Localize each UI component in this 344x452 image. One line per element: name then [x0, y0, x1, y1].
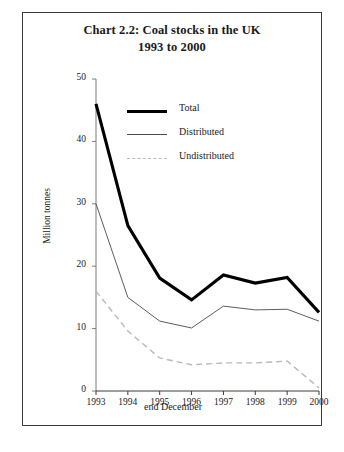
x-axis-tick-label: 1995 — [143, 397, 177, 407]
plot-area: Million tonnes end December 01020304050 … — [23, 13, 323, 427]
x-axis-tick-label: 2000 — [302, 397, 336, 407]
legend-item-undistributed: Undistributed — [127, 149, 287, 173]
legend-swatch-undistributed-icon — [127, 158, 167, 159]
y-axis-ticks — [92, 79, 96, 391]
x-axis-tick-label: 1993 — [79, 397, 113, 407]
series-line-distributed — [96, 204, 319, 328]
x-axis-tick-label: 1998 — [238, 397, 272, 407]
y-axis-label: Million tonnes — [42, 171, 52, 261]
x-axis-tick-label: 1994 — [111, 397, 145, 407]
legend-swatch-total-icon — [127, 110, 167, 113]
legend-label-total: Total — [179, 102, 199, 113]
chart-legend: Total Distributed Undistributed — [127, 101, 287, 173]
x-axis-tick-label: 1996 — [175, 397, 209, 407]
legend-item-total: Total — [127, 101, 287, 125]
y-axis-tick-label: 20 — [60, 259, 86, 269]
y-axis-tick-label: 40 — [60, 134, 86, 144]
legend-swatch-distributed-icon — [127, 134, 167, 135]
series-line-undistributed — [96, 291, 319, 388]
x-axis-tick-label: 1997 — [206, 397, 240, 407]
y-axis-tick-label: 0 — [60, 384, 86, 394]
x-axis-tick-label: 1999 — [270, 397, 304, 407]
legend-label-distributed: Distributed — [179, 126, 224, 137]
legend-item-distributed: Distributed — [127, 125, 287, 149]
y-axis-tick-label: 10 — [60, 322, 86, 332]
chart-figure: Chart 2.2: Coal stocks in the UK 1993 to… — [22, 12, 322, 426]
y-axis-tick-label: 50 — [60, 72, 86, 82]
y-axis-tick-label: 30 — [60, 197, 86, 207]
x-axis-ticks — [96, 391, 319, 395]
legend-label-undistributed: Undistributed — [179, 150, 234, 161]
